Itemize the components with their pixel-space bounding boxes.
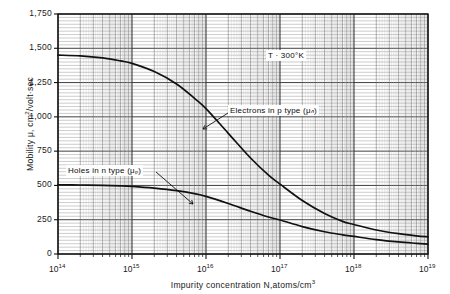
y-tick-label: 750 [37, 145, 52, 155]
annotation-electrons-series: Electrons in p type (μₙ) [228, 105, 319, 116]
x-tick-label: 1019 [419, 262, 435, 274]
x-tick-label: 1018 [345, 262, 361, 274]
y-tick-label: 250 [37, 214, 52, 224]
annotation-holes-series: Holes in n type (μₚ) [66, 165, 143, 176]
x-axis-ticks [58, 254, 428, 259]
y-tick-label: 500 [37, 179, 52, 189]
annotation-leader-lines [156, 113, 228, 204]
x-axis-title: Impurity concentration N,atoms/cm3 [58, 278, 428, 290]
mobility-vs-impurity-chart: 02505007501,0001,2501,5001,750 101410151… [0, 0, 450, 294]
x-tick-label: 1015 [123, 262, 139, 274]
x-tick-label: 1014 [49, 262, 65, 274]
y-tick-label: 1,750 [29, 8, 52, 18]
x-tick-label: 1017 [271, 262, 287, 274]
x-tick-label: 1016 [197, 262, 213, 274]
leader-line-0 [203, 113, 228, 129]
grid-lines [58, 14, 428, 254]
y-axis-title: Mobility μ, cm2/volt·sec [23, 49, 35, 199]
y-tick-label: 0 [47, 248, 52, 258]
plot-canvas [0, 0, 450, 294]
annotation-temperature: T · 300°K [266, 50, 306, 61]
